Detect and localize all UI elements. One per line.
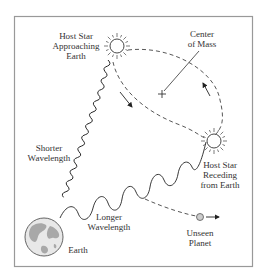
longer-wavelength-wave	[60, 142, 206, 219]
orbit-arrow-icon	[120, 92, 132, 107]
label-center-of-mass: Center of Mass	[180, 29, 224, 49]
label-host-star-receding: Host Star Receding from Earth	[198, 160, 242, 190]
star-orbit-path	[113, 49, 222, 138]
planet-orbit-path	[145, 199, 196, 216]
label-line: Wavelength	[84, 222, 134, 232]
center-of-mass-marker	[158, 51, 199, 98]
planet-icon	[197, 214, 204, 221]
label-line: Unseen	[180, 228, 220, 238]
label-line: Earth	[50, 51, 102, 61]
radial-velocity-diagram	[0, 0, 271, 277]
label-line: Earth	[63, 245, 93, 255]
label-line: Shorter	[24, 143, 74, 153]
label-longer-wavelength: Longer Wavelength	[84, 212, 134, 232]
globe-icon	[25, 218, 63, 256]
label-line: from Earth	[198, 180, 242, 190]
label-line: Host Star	[198, 160, 242, 170]
label-host-star-approaching: Host Star Approaching Earth	[50, 31, 102, 61]
label-line: Planet	[180, 238, 220, 248]
label-line: Approaching	[50, 41, 102, 51]
label-line: Center	[180, 29, 224, 39]
label-line: of Mass	[180, 39, 224, 49]
label-line: Longer	[84, 212, 134, 222]
shorter-wavelength-wave	[62, 57, 111, 200]
label-line: Host Star	[50, 31, 102, 41]
orbit-arrow-icon	[203, 83, 210, 96]
label-line: Receding	[198, 170, 242, 180]
label-line: Wavelength	[24, 153, 74, 163]
label-unseen-planet: Unseen Planet	[180, 228, 220, 248]
sun-icon	[201, 128, 227, 154]
label-earth: Earth	[63, 245, 93, 255]
sun-icon	[104, 33, 130, 59]
label-shorter-wavelength: Shorter Wavelength	[24, 143, 74, 163]
